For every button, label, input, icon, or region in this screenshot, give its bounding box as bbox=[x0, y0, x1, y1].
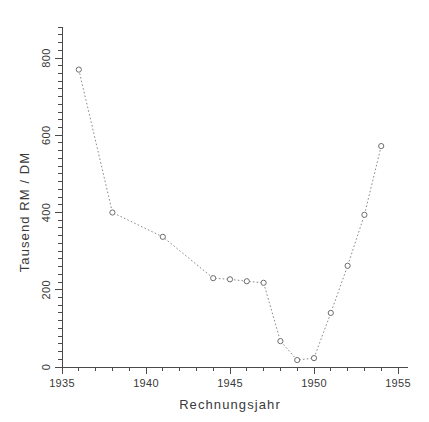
data-point-marker bbox=[244, 279, 249, 284]
data-point-marker bbox=[362, 212, 367, 217]
x-tick-label: 1940 bbox=[133, 377, 159, 389]
y-axis-title: Tausend RM / DM bbox=[17, 152, 32, 273]
y-tick-label: 800 bbox=[40, 48, 52, 67]
x-axis: 19351940194519501955 bbox=[49, 367, 411, 389]
data-point-marker bbox=[110, 210, 115, 215]
data-markers bbox=[76, 67, 384, 363]
data-point-marker bbox=[345, 263, 350, 268]
x-tick-label: 1950 bbox=[301, 377, 327, 389]
y-axis: 0200400600800 bbox=[40, 27, 62, 370]
data-point-marker bbox=[295, 357, 300, 362]
line-chart: 0200400600800 19351940194519501955 Rechn… bbox=[0, 0, 429, 422]
data-point-marker bbox=[261, 280, 266, 285]
data-point-marker bbox=[311, 356, 316, 361]
data-point-marker bbox=[160, 234, 165, 239]
y-tick-label: 200 bbox=[40, 280, 52, 299]
x-axis-title: Rechnungsjahr bbox=[179, 397, 281, 412]
data-point-marker bbox=[211, 276, 216, 281]
chart-container: 0200400600800 19351940194519501955 Rechn… bbox=[0, 0, 429, 422]
x-tick-label: 1935 bbox=[49, 377, 75, 389]
data-point-marker bbox=[278, 339, 283, 344]
y-tick-label: 0 bbox=[40, 364, 52, 370]
y-tick-label: 600 bbox=[40, 126, 52, 145]
data-series bbox=[79, 70, 381, 360]
data-point-marker bbox=[227, 277, 232, 282]
x-tick-label: 1945 bbox=[217, 377, 243, 389]
data-point-marker bbox=[379, 143, 384, 148]
data-point-marker bbox=[76, 67, 81, 72]
data-point-marker bbox=[328, 310, 333, 315]
series-line-path bbox=[79, 70, 381, 360]
y-tick-label: 400 bbox=[40, 203, 52, 222]
x-tick-label: 1955 bbox=[385, 377, 411, 389]
